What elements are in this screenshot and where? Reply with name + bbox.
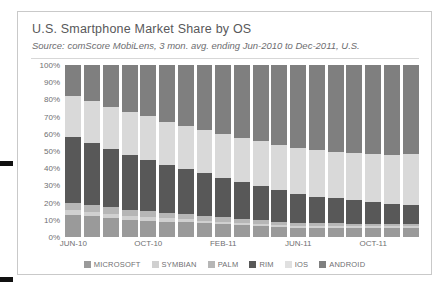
bar-segment-rim bbox=[253, 186, 269, 220]
bar-segment-microsoft bbox=[197, 223, 213, 237]
stacked-bar[interactable] bbox=[384, 65, 400, 237]
stacked-bar[interactable] bbox=[253, 65, 269, 237]
bar-segment-microsoft bbox=[384, 228, 400, 237]
bar-segment-android bbox=[290, 65, 306, 148]
bar-segment-ios bbox=[65, 96, 81, 137]
bar-segment-rim bbox=[84, 143, 100, 205]
stacked-bar[interactable] bbox=[103, 65, 119, 237]
bar-segment-microsoft bbox=[215, 224, 231, 237]
legend-item-android[interactable]: ANDROID bbox=[319, 260, 365, 269]
stacked-bar[interactable] bbox=[159, 65, 175, 237]
bar-segment-android bbox=[346, 65, 362, 153]
bar-segment-microsoft bbox=[159, 222, 175, 237]
bar-segment-android bbox=[197, 65, 213, 130]
x-axis-tick: JUN-11 bbox=[285, 239, 312, 248]
bar-segment-ios bbox=[122, 112, 138, 155]
stacked-bar[interactable] bbox=[290, 65, 306, 237]
bar-segment-rim bbox=[365, 202, 381, 224]
bar-segment-rim bbox=[328, 198, 344, 223]
bar-segment-rim bbox=[122, 155, 138, 210]
bar-segment-rim bbox=[140, 160, 156, 212]
stacked-bar[interactable] bbox=[403, 65, 419, 237]
bar-segment-android bbox=[328, 65, 344, 152]
bar-segment-microsoft bbox=[328, 228, 344, 237]
bar-segment-ios bbox=[197, 130, 213, 173]
y-axis: 0%10%20%30%40%50%60%70%80%90%100% bbox=[18, 65, 64, 237]
bar-segment-microsoft bbox=[365, 228, 381, 237]
bar-segment-rim bbox=[103, 149, 119, 207]
bar-segment-microsoft bbox=[403, 228, 419, 237]
stacked-bar[interactable] bbox=[234, 65, 250, 237]
legend-swatch-icon bbox=[152, 261, 159, 268]
x-axis-tick: FEB-11 bbox=[210, 239, 237, 248]
y-axis-tick: 40% bbox=[44, 164, 60, 173]
bar-segment-microsoft bbox=[271, 227, 287, 237]
bar-segment-android bbox=[215, 65, 231, 134]
stacked-bar[interactable] bbox=[271, 65, 287, 237]
y-axis-tick: 80% bbox=[44, 95, 60, 104]
chart-legend: MICROSOFTSYMBIANPALMRIMIOSANDROID bbox=[18, 260, 431, 269]
bar-segment-rim bbox=[290, 194, 306, 223]
stacked-bar[interactable] bbox=[197, 65, 213, 237]
y-axis-tick: 10% bbox=[44, 215, 60, 224]
y-axis-tick: 70% bbox=[44, 112, 60, 121]
legend-item-rim[interactable]: RIM bbox=[249, 260, 273, 269]
bar-segment-android bbox=[403, 65, 419, 154]
x-axis: JUN-10OCT-10FEB-11JUN-11OCT-11 bbox=[64, 237, 420, 251]
legend-item-symbian[interactable]: SYMBIAN bbox=[152, 260, 197, 269]
legend-swatch-icon bbox=[208, 261, 215, 268]
legend-item-ios[interactable]: IOS bbox=[285, 260, 309, 269]
bar-segment-rim bbox=[346, 200, 362, 223]
bar-segment-microsoft bbox=[253, 226, 269, 237]
stacked-bar[interactable] bbox=[84, 65, 100, 237]
bar-segment-android bbox=[65, 65, 81, 96]
header-divider bbox=[31, 58, 419, 59]
legend-item-palm[interactable]: PALM bbox=[208, 260, 239, 269]
stacked-bar[interactable] bbox=[215, 65, 231, 237]
bar-segment-microsoft bbox=[122, 220, 138, 237]
y-axis-tick: 60% bbox=[44, 129, 60, 138]
y-axis-tick: 30% bbox=[44, 181, 60, 190]
bar-segment-android bbox=[384, 65, 400, 155]
legend-label: SYMBIAN bbox=[162, 260, 197, 269]
chart-title: U.S. Smartphone Market Share by OS bbox=[32, 22, 431, 36]
bar-segment-ios bbox=[346, 153, 362, 200]
bar-segment-rim bbox=[197, 173, 213, 216]
stacked-bar[interactable] bbox=[365, 65, 381, 237]
bar-segment-palm bbox=[84, 205, 100, 212]
stacked-bar[interactable] bbox=[178, 65, 194, 237]
chart-figure: U.S. Smartphone Market Share by OS Sourc… bbox=[17, 11, 432, 275]
bar-segment-rim bbox=[159, 165, 175, 213]
bar-segment-ios bbox=[159, 122, 175, 165]
bar-segment-ios bbox=[403, 154, 419, 205]
bar-segment-rim bbox=[384, 204, 400, 224]
bar-segment-rim bbox=[403, 205, 419, 224]
stacked-bar[interactable] bbox=[346, 65, 362, 237]
bar-segment-android bbox=[271, 65, 287, 145]
stacked-bar[interactable] bbox=[65, 65, 81, 237]
bar-segment-android bbox=[84, 65, 100, 101]
bar-segment-android bbox=[309, 65, 325, 150]
stacked-bar[interactable] bbox=[309, 65, 325, 237]
bar-segment-ios bbox=[384, 155, 400, 204]
legend-item-microsoft[interactable]: MICROSOFT bbox=[84, 260, 141, 269]
bar-segment-android bbox=[103, 65, 119, 107]
stacked-bar[interactable] bbox=[122, 65, 138, 237]
bar-segment-palm bbox=[65, 203, 81, 211]
legend-label: RIM bbox=[259, 260, 273, 269]
bar-segment-microsoft bbox=[140, 221, 156, 237]
bar-segment-rim bbox=[309, 197, 325, 224]
bar-segment-ios bbox=[140, 116, 156, 160]
bar-segment-ios bbox=[253, 141, 269, 186]
bar-segment-android bbox=[159, 65, 175, 122]
bar-segment-android bbox=[140, 65, 156, 116]
bar-segment-ios bbox=[309, 150, 325, 196]
bar-segment-ios bbox=[365, 154, 381, 202]
bar-segment-ios bbox=[234, 138, 250, 182]
bar-segment-ios bbox=[290, 148, 306, 194]
legend-label: MICROSOFT bbox=[94, 260, 141, 269]
stacked-bar[interactable] bbox=[328, 65, 344, 237]
bar-segment-rim bbox=[178, 169, 194, 215]
bar-segment-microsoft bbox=[178, 222, 194, 237]
stacked-bar[interactable] bbox=[140, 65, 156, 237]
